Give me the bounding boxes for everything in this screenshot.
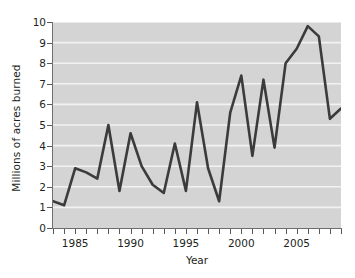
y-axis-tick-label: 6 bbox=[24, 99, 46, 109]
x-axis-tick-label: 1990 bbox=[111, 237, 151, 249]
x-axis-tick-marks bbox=[0, 229, 355, 236]
x-axis-tick-mark bbox=[219, 229, 220, 234]
x-axis-tick-mark bbox=[319, 229, 320, 234]
x-axis-tick-label: 2000 bbox=[221, 237, 261, 249]
x-axis-title: Year bbox=[53, 254, 341, 266]
x-axis-tick-mark bbox=[241, 229, 242, 234]
x-axis-tick-mark bbox=[208, 229, 209, 234]
x-axis-tick-mark bbox=[64, 229, 65, 234]
y-axis-tick-label: 7 bbox=[24, 79, 46, 89]
x-axis-tick-mark bbox=[97, 229, 98, 234]
chart-figure: Millions of acres burned 012345678910 19… bbox=[0, 0, 355, 278]
x-axis-tick-mark bbox=[341, 229, 342, 234]
x-axis-tick-mark bbox=[153, 229, 154, 234]
x-axis-tick-mark bbox=[197, 229, 198, 234]
x-axis-tick-mark bbox=[186, 229, 187, 234]
x-axis-tick-mark bbox=[297, 229, 298, 234]
x-axis-tick-label: 2005 bbox=[277, 237, 317, 249]
x-axis-tick-mark bbox=[230, 229, 231, 234]
y-axis-tick-label: 10 bbox=[24, 17, 46, 27]
y-axis-tick-label: 5 bbox=[24, 120, 46, 130]
x-axis-tick-mark bbox=[308, 229, 309, 234]
y-axis-tick-label: 2 bbox=[24, 182, 46, 192]
x-axis-tick-mark bbox=[164, 229, 165, 234]
data-series-line bbox=[53, 26, 341, 205]
y-axis-tick-label: 1 bbox=[24, 202, 46, 212]
x-axis-tick-mark bbox=[86, 229, 87, 234]
x-axis-tick-mark bbox=[108, 229, 109, 234]
plot-svg bbox=[53, 22, 341, 228]
y-axis-tick-label: 8 bbox=[24, 58, 46, 68]
gridlines bbox=[53, 22, 341, 207]
x-axis-tick-mark bbox=[263, 229, 264, 234]
y-axis-tick-label: 9 bbox=[24, 38, 46, 48]
y-axis-tick-label: 3 bbox=[24, 161, 46, 171]
x-axis-tick-mark bbox=[131, 229, 132, 234]
x-axis-tick-label: 1985 bbox=[55, 237, 95, 249]
x-axis-tick-mark bbox=[142, 229, 143, 234]
x-axis-tick-mark bbox=[286, 229, 287, 234]
plot-area bbox=[53, 22, 341, 228]
x-axis-tick-mark bbox=[330, 229, 331, 234]
x-axis-tick-mark bbox=[252, 229, 253, 234]
x-axis-tick-label: 1995 bbox=[166, 237, 206, 249]
y-axis-tick-label: 4 bbox=[24, 141, 46, 151]
x-axis-tick-labels: 19851990199520002005 bbox=[0, 237, 355, 251]
x-axis-tick-mark bbox=[75, 229, 76, 234]
x-axis-tick-mark bbox=[275, 229, 276, 234]
x-axis-tick-mark bbox=[53, 229, 54, 234]
x-axis-tick-mark bbox=[175, 229, 176, 234]
x-axis-tick-mark bbox=[119, 229, 120, 234]
